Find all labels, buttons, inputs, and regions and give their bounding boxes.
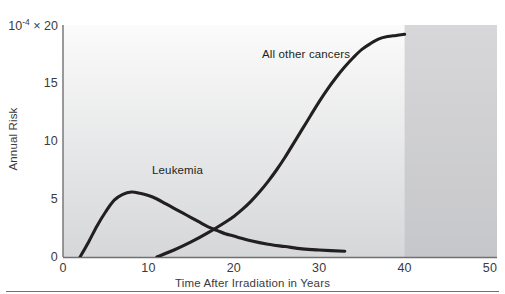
x-tick-label-0: 0 xyxy=(59,261,66,275)
y-multiplier-value: 20 xyxy=(44,19,58,33)
x-tick-label-40: 40 xyxy=(397,261,411,275)
footer-divider xyxy=(6,291,499,292)
y-axis-multiplier-label: 10-4 × 20 xyxy=(0,17,58,33)
series-label-leukemia: Leukemia xyxy=(152,164,203,176)
projection-shaded-region xyxy=(405,25,497,257)
y-multiplier-times: × xyxy=(33,19,40,33)
series-label-all-other-cancers: All other cancers xyxy=(262,48,350,60)
x-axis-title: Time After Irradiation in Years xyxy=(0,277,505,289)
x-tick-label-10: 10 xyxy=(141,261,155,275)
y-axis-title: Annual Risk xyxy=(7,99,19,179)
chart-figure: 10-4 × 20 051015 01020304050 Annual Risk… xyxy=(0,0,505,294)
x-tick-label-30: 30 xyxy=(312,261,326,275)
y-multiplier-base: 10 xyxy=(8,19,22,33)
x-tick-label-20: 20 xyxy=(227,261,241,275)
y-multiplier-exponent: -4 xyxy=(22,17,30,27)
x-tick-label-50: 50 xyxy=(483,261,497,275)
y-tick-label-0: 0 xyxy=(0,250,58,264)
y-tick-label-15: 15 xyxy=(0,76,58,90)
chart-plot-area xyxy=(0,0,505,294)
y-tick-label-5: 5 xyxy=(0,192,58,206)
